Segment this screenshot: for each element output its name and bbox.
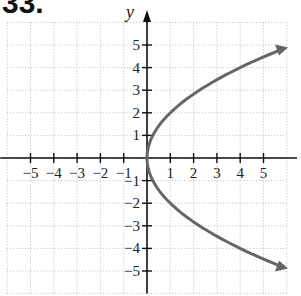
y-tick-label: −4 — [124, 240, 140, 256]
y-tick-label: 3 — [133, 82, 141, 98]
y-tick-label: −1 — [124, 173, 140, 189]
x-tick-label: −4 — [46, 165, 62, 181]
y-tick-label: 5 — [133, 37, 141, 53]
x-tick-label: 4 — [236, 165, 244, 181]
y-tick-label: 2 — [133, 105, 141, 121]
y-axis-label: y — [124, 2, 134, 22]
y-tick-label: −2 — [124, 195, 140, 211]
x-tick-label: −2 — [92, 165, 108, 181]
x-tick-label: 5 — [260, 165, 268, 181]
x-tick-label: 3 — [213, 165, 221, 181]
y-tick-label: −5 — [124, 263, 140, 279]
x-tick-label: 2 — [190, 165, 198, 181]
parabola-graph: −5−4−3−2−112345−5−4−3−2−112345 y — [0, 0, 301, 296]
x-tick-label: −3 — [69, 165, 85, 181]
y-axis-arrow-icon — [143, 10, 151, 22]
x-tick-label: 1 — [167, 165, 175, 181]
x-tick-label: −5 — [23, 165, 39, 181]
y-tick-label: −3 — [124, 218, 140, 234]
y-tick-label: 4 — [133, 60, 141, 76]
y-tick-label: 1 — [133, 127, 141, 143]
